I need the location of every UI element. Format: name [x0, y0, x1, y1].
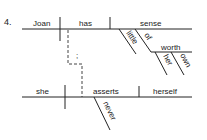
clause-connector-dashed [68, 30, 82, 97]
prep-object-worth: worth [160, 43, 181, 52]
clause1-verb: has [79, 19, 92, 28]
clause1-subject: Joan [33, 19, 50, 28]
connector-label: ; [76, 51, 78, 60]
clause1-object: sense [140, 19, 162, 28]
modifier-own: own [178, 52, 193, 69]
preposition-of: of [142, 31, 154, 42]
clause2-verb: asserts [93, 87, 119, 96]
sentence-diagram: 4. Joan has sense little of worth her ow… [0, 0, 207, 140]
clause2-object: herself [153, 87, 178, 96]
clause2-subject: she [36, 87, 49, 96]
modifier-never: never [101, 100, 118, 122]
problem-number: 4. [4, 17, 12, 27]
modifier-little: little [124, 29, 140, 46]
